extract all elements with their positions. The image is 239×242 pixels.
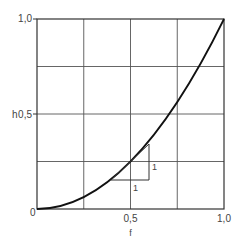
slope-triangle [111,144,149,180]
y-tick-0-5: 0,5 [18,109,32,120]
slope-run-label: 1 [133,183,138,193]
y-axis-label: h [12,109,18,120]
slope-rise-label: 1 [152,162,157,172]
x-tick-1: 1,0 [217,213,231,224]
y-tick-1: 1,0 [18,13,32,24]
chart: 1 1 1,0 0,5 h 0 0,5 1,0 f [0,0,239,242]
x-axis-label: f [129,228,132,238]
x-tick-0-5: 0,5 [124,213,138,224]
origin-label: 0 [30,207,36,218]
